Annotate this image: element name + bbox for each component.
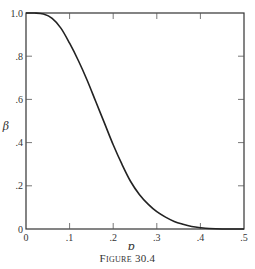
axis-ticks: [26, 13, 244, 229]
x-tick-label: .2: [109, 232, 117, 243]
figure-caption: Figure 30.4: [0, 252, 255, 264]
y-tick-label: 0: [18, 224, 23, 235]
plot-frame: [26, 13, 244, 229]
y-tick-label: .2: [16, 180, 24, 191]
x-tick-labels: 0.1.2.3.4.5: [24, 232, 248, 243]
y-tick-label: .8: [16, 51, 24, 62]
x-tick-label: 0: [24, 232, 29, 243]
x-tick-label: .4: [197, 232, 205, 243]
beta-curve: [26, 13, 244, 229]
x-tick-label: .5: [240, 232, 248, 243]
x-axis-label: p: [127, 240, 134, 250]
x-tick-label: .3: [153, 232, 161, 243]
y-tick-label: 1.0: [11, 8, 24, 19]
y-tick-label: .4: [16, 137, 24, 148]
x-tick-label: .1: [66, 232, 74, 243]
chart: 0.1.2.3.4.5 0.2.4.6.81.0 p β: [0, 0, 255, 250]
y-tick-labels: 0.2.4.6.81.0: [11, 8, 24, 235]
y-axis-label: β: [2, 120, 9, 133]
y-tick-label: .6: [16, 94, 24, 105]
